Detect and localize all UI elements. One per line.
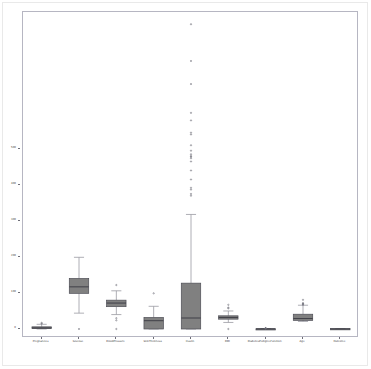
box-Age (293, 299, 312, 321)
y-axis-tick-area: 0100200300400500 (0, 11, 20, 337)
box-BMI (219, 304, 238, 329)
box-Outcome (331, 329, 350, 330)
box-Insulin (181, 24, 200, 329)
x-tick-label-Pregnancies: Pregnancies (33, 341, 49, 344)
x-axis-tick-area: PregnanciesGlucoseBloodPressureSkinThick… (22, 337, 358, 365)
x-tick-label-Insulin: Insulin (186, 341, 195, 344)
box-Glucose (69, 257, 88, 329)
x-tick-label-Outcome: Outcome (333, 341, 345, 344)
figure-canvas: 0100200300400500 PregnanciesGlucoseBlood… (0, 0, 371, 369)
x-tick-mark (302, 337, 303, 339)
x-tick-label-DiabetesPedigreeFunction: DiabetesPedigreeFunction (248, 341, 282, 344)
x-tick-label-BloodPressure: BloodPressure (106, 341, 124, 344)
x-tick-mark (190, 337, 191, 339)
y-tick-label: 300 (11, 219, 16, 222)
y-tick-mark (18, 148, 20, 149)
x-tick-mark (227, 337, 228, 339)
x-tick-mark (78, 337, 79, 339)
x-tick-mark (153, 337, 154, 339)
y-tick-mark (18, 328, 20, 329)
x-tick-label-BMI: BMI (225, 341, 230, 344)
y-tick-label: 100 (11, 291, 16, 294)
box-SkinThickness (144, 293, 163, 329)
y-tick-mark (18, 184, 20, 185)
x-tick-mark (41, 337, 42, 339)
y-tick-mark (18, 292, 20, 293)
x-tick-mark (339, 337, 340, 339)
x-tick-label-Age: Age (299, 341, 304, 344)
x-tick-label-Glucose: Glucose (73, 341, 83, 344)
y-tick-label: 200 (11, 255, 16, 258)
plot-surface (23, 12, 357, 336)
y-tick-label: 500 (11, 147, 16, 150)
x-tick-mark (265, 337, 266, 339)
box-BloodPressure (107, 284, 126, 329)
y-tick-mark (18, 220, 20, 221)
plot-axes (22, 11, 358, 337)
x-tick-mark (115, 337, 116, 339)
y-tick-mark (18, 256, 20, 257)
box-DiabetesPedigreeFunction (256, 327, 275, 329)
box-Pregnancies (32, 322, 51, 329)
y-tick-label: 400 (11, 183, 16, 186)
boxplot-layer (23, 12, 359, 338)
x-tick-label-SkinThickness: SkinThickness (143, 341, 161, 344)
y-tick-label: 0 (14, 327, 16, 330)
